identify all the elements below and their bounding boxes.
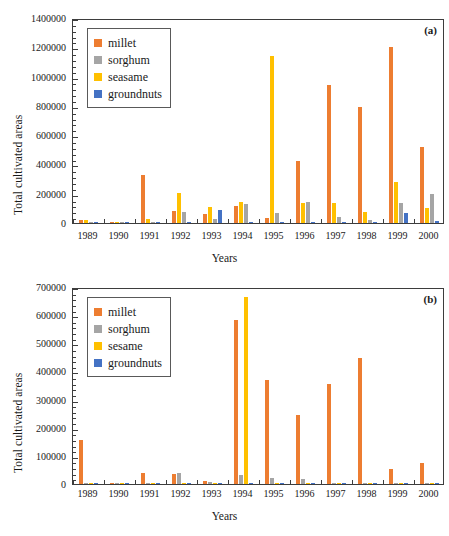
- legend-item-sorghum[interactable]: sorghum: [94, 320, 162, 337]
- bar-sesame: [151, 483, 155, 484]
- y-axis-tick: [73, 79, 78, 80]
- y-axis-minor-tick: [73, 207, 76, 208]
- x-tick-label: 1992: [171, 231, 191, 241]
- x-axis-tick: [290, 219, 291, 223]
- y-axis-minor-tick: [73, 306, 76, 307]
- legend-item-seasame[interactable]: seasame: [94, 68, 162, 85]
- y-axis-minor-tick: [73, 131, 76, 132]
- legend-item-groundnuts[interactable]: groundnuts: [94, 85, 162, 102]
- x-tick-label: 1997: [326, 231, 346, 241]
- bar-groundnuts: [218, 483, 222, 484]
- x-axis-tick: [104, 480, 105, 484]
- y-axis-minor-tick: [73, 213, 76, 214]
- bar-groundnuts: [342, 222, 346, 223]
- bar-groundnuts: [218, 210, 222, 223]
- chart-panel-a: Total cultivated areas 02000004000006000…: [0, 0, 449, 270]
- bar-groundnuts: [311, 483, 315, 484]
- legend-swatch-icon: [94, 342, 102, 350]
- y-tick-label: 400000: [36, 160, 66, 170]
- x-axis-tick: [197, 480, 198, 484]
- bar-sorghum: [270, 478, 274, 484]
- legend-swatch-icon: [94, 359, 102, 367]
- bar-groundnuts: [187, 483, 191, 484]
- bar-sorghum: [306, 202, 310, 223]
- chart-panel-b: Total cultivated areas 01000002000003000…: [0, 268, 449, 536]
- legend-item-millet[interactable]: millet: [94, 303, 162, 320]
- legend-swatch-icon: [94, 56, 102, 64]
- bar-groundnuts: [280, 222, 284, 223]
- y-axis-tick: [73, 196, 78, 197]
- x-tick-label: 1995: [264, 489, 284, 499]
- figure-root: Total cultivated areas 02000004000006000…: [0, 0, 449, 536]
- bar-seasame: [363, 212, 367, 223]
- x-tick-label: 1991: [140, 489, 160, 499]
- y-axis-minor-tick: [73, 463, 76, 464]
- y-axis-minor-tick: [73, 368, 76, 369]
- bar-groundnuts: [249, 222, 253, 223]
- bar-millet: [389, 47, 393, 223]
- y-axis-minor-tick: [73, 340, 76, 341]
- bar-seasame: [270, 56, 274, 223]
- y-axis-tick: [73, 345, 78, 346]
- x-axis-tick: [383, 219, 384, 223]
- y-tick-label: 200000: [36, 424, 66, 434]
- y-axis-minor-tick: [73, 161, 76, 162]
- x-axis-tick: [352, 219, 353, 223]
- legend-label: seasame: [108, 71, 148, 83]
- bar-sorghum: [275, 213, 279, 223]
- bar-group: [420, 20, 439, 223]
- y-axis-minor-tick: [73, 202, 76, 203]
- bar-groundnuts: [311, 222, 315, 223]
- y-tick-label: 700000: [36, 283, 66, 293]
- bar-seasame: [115, 222, 119, 223]
- x-axis-tick: [383, 480, 384, 484]
- y-axis-minor-tick: [73, 475, 76, 476]
- y-tick-label: 1400000: [31, 14, 66, 24]
- bar-groundnuts: [373, 483, 377, 484]
- bar-sorghum: [115, 483, 119, 484]
- y-axis-tick: [73, 49, 78, 50]
- y-axis-minor-tick: [73, 172, 76, 173]
- legend-item-sorghum[interactable]: sorghum: [94, 51, 162, 68]
- x-tick-label: 2000: [419, 231, 439, 241]
- y-axis-minor-tick: [73, 424, 76, 425]
- y-axis-tick: [73, 458, 78, 459]
- bar-group: [296, 289, 315, 484]
- y-axis-tick: [73, 402, 78, 403]
- y-axis-minor-tick: [73, 120, 76, 121]
- legend-item-millet[interactable]: millet: [94, 34, 162, 51]
- x-tick-label: 1997: [326, 489, 346, 499]
- bar-sorghum: [430, 194, 434, 223]
- y-axis-tick: [73, 20, 78, 21]
- y-axis-minor-tick: [73, 67, 76, 68]
- legend-item-sesame[interactable]: sesame: [94, 337, 162, 354]
- x-axis-tick: [228, 219, 229, 223]
- bar-sesame: [337, 483, 341, 484]
- bar-groundnuts: [280, 483, 284, 484]
- bar-group: [265, 289, 284, 484]
- legend-swatch-icon: [94, 325, 102, 333]
- legend-label: millet: [108, 37, 136, 49]
- x-axis-tick: [166, 480, 167, 484]
- y-axis-minor-tick: [73, 323, 76, 324]
- y-axis-minor-tick: [73, 84, 76, 85]
- bar-sesame: [306, 483, 310, 484]
- bar-sorghum: [177, 473, 181, 484]
- bar-seasame: [146, 219, 150, 223]
- y-tick-label: 200000: [36, 190, 66, 200]
- legend-item-groundnuts[interactable]: groundnuts: [94, 354, 162, 371]
- bar-group: [358, 20, 377, 223]
- x-tick-label: 1990: [109, 489, 129, 499]
- bar-groundnuts: [156, 222, 160, 223]
- bar-millet: [296, 161, 300, 223]
- bar-sorghum: [332, 483, 336, 484]
- legend-label: millet: [108, 306, 136, 318]
- bar-groundnuts: [125, 483, 129, 484]
- bar-group: [203, 20, 222, 223]
- bar-seasame: [208, 207, 212, 223]
- x-tick-label: 1996: [295, 489, 315, 499]
- bar-groundnuts: [94, 483, 98, 484]
- x-axis-tick: [135, 219, 136, 223]
- bar-group: [389, 289, 408, 484]
- y-axis-minor-tick: [73, 447, 76, 448]
